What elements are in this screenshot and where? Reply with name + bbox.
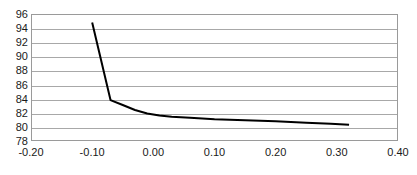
y-axis-tick-label: 82 [2, 108, 28, 119]
series-line [92, 22, 349, 124]
y-axis-tick-label: 84 [2, 94, 28, 105]
y-axis-tick-label: 88 [2, 65, 28, 76]
x-axis-tick-labels: -0.20-0.100.000.100.200.300.40 [31, 146, 398, 162]
x-axis-tick-label: 0.10 [185, 146, 245, 159]
y-axis-tick-label: 90 [2, 51, 28, 62]
x-axis-tick-label: 0.30 [307, 146, 367, 159]
y-axis-tick-label: 96 [2, 9, 28, 20]
line-chart: 78808284868890929496 -0.20-0.100.000.100… [0, 0, 417, 175]
y-axis-tick-label: 94 [2, 23, 28, 34]
x-axis-tick-label: 0.20 [246, 146, 306, 159]
x-axis-tick-label: 0.40 [368, 146, 417, 159]
y-axis-tick-label: 80 [2, 122, 28, 133]
x-axis-tick-label: -0.20 [1, 146, 61, 159]
y-axis-tick-label: 92 [2, 37, 28, 48]
series-layer [31, 14, 398, 141]
x-axis-tick-label: -0.10 [62, 146, 122, 159]
series-1-line [31, 14, 398, 141]
x-axis-tick-label: 0.00 [123, 146, 183, 159]
y-axis-tick-label: 86 [2, 80, 28, 91]
y-axis-tick-labels: 78808284868890929496 [0, 14, 28, 141]
